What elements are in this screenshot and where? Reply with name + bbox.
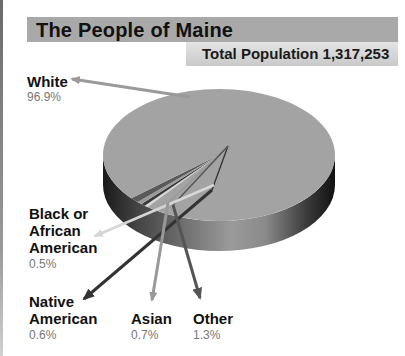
pct-white: 96.9% [27, 90, 61, 104]
leader-white [72, 79, 190, 97]
label-black-line1: Black or [29, 205, 88, 222]
pct-native: 0.6% [29, 328, 56, 342]
label-native-line1: Native [29, 293, 74, 310]
label-native-line2: American [29, 310, 97, 327]
label-black-line3: American [29, 239, 97, 256]
pct-other: 1.3% [193, 328, 220, 342]
label-other: Other [193, 310, 233, 327]
label-white: White [27, 73, 68, 90]
label-black-line2: African [29, 222, 81, 239]
pct-asian: 0.7% [131, 328, 158, 342]
label-asian: Asian [131, 310, 172, 327]
pct-black: 0.5% [29, 257, 56, 271]
